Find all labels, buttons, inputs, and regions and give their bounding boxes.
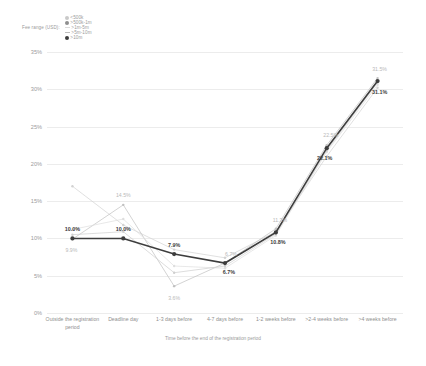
legend-marker-icon [65,21,69,25]
data-point-label: 11.3% [273,217,287,223]
series-point [223,261,227,265]
series-point [173,248,175,250]
data-point-label: 31.1% [372,89,387,95]
data-point-label: 10.0% [65,226,80,232]
legend-title: Fee range (USD): [22,25,60,30]
legend-marker-icon [65,36,69,40]
data-point-label: 10.8% [270,239,285,245]
series-point [173,285,175,287]
y-axis-tick: 30% [31,86,42,92]
series-point [71,185,73,187]
legend-marker-icon [65,27,70,28]
data-point-label: 10.0% [116,226,131,232]
series-point [173,265,175,267]
y-axis-tick: 5% [34,273,42,279]
series-point [325,146,329,150]
data-point-label: 6.7% [223,269,235,275]
legend-marker-icon [65,32,70,33]
series-point [173,272,175,274]
series-point [122,218,124,220]
series-point [375,79,379,83]
y-axis-tick: 10% [31,235,42,241]
data-point-label: 3.6% [168,295,180,301]
y-axis-tick: 35% [31,49,42,55]
data-point-label: 31.5% [372,66,387,72]
data-point-label: 22.5% [323,132,338,138]
y-axis-tick: 25% [31,124,42,130]
x-axis-title: Time before the end of the registration … [0,336,426,341]
y-axis-tick: 15% [31,198,42,204]
legend-items: <500k>500k-1m>1m-5m>5m-10m>10m [65,15,97,40]
series-point [376,77,378,79]
plot-area: 0%5%10%15%20%25%30%35% 9.9%14.5%3.6%6.7%… [47,52,403,313]
series-point [70,236,74,240]
series-line-2 [72,85,377,268]
data-point-label: 9.9% [66,247,78,253]
series-point [224,265,226,267]
data-point-label: 7.9% [168,242,180,248]
x-axis-label-6: >4 weeks before [346,316,410,324]
y-axis-tick: 20% [31,161,42,167]
series-point [172,252,176,256]
legend-marker-icon [65,16,69,20]
series-line-3 [72,83,377,273]
series-point [274,230,278,234]
series-point [122,204,124,206]
data-point-label: 14.5% [116,192,131,198]
legend-item-4: >10m [65,35,92,40]
legend-item-label: >10m [70,35,82,40]
gridline [47,313,403,314]
data-point-label: 6.7% [225,251,237,257]
series-line-4 [72,81,377,263]
series-point [71,234,73,236]
data-point-label: 22.1% [317,155,332,161]
series-point [121,236,125,240]
line-chart: Fee range (USD): <500k>500k-1m>1m-5m>5m-… [0,0,426,366]
chart-legend: Fee range (USD): <500k>500k-1m>1m-5m>5m-… [22,15,97,40]
